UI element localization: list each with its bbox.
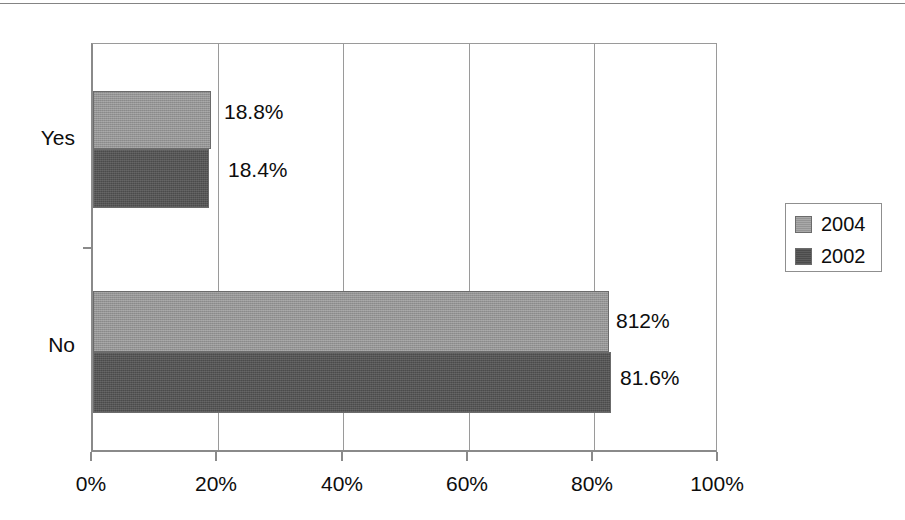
legend-entry-2004[interactable]: 2004 <box>795 214 866 234</box>
bar-no-2002[interactable] <box>93 352 611 413</box>
x-axis-label-40: 40% <box>321 473 363 494</box>
bar-no-2004[interactable] <box>93 291 609 352</box>
value-label-no-2004: 812% <box>616 310 670 331</box>
category-label-no: No <box>0 334 75 355</box>
value-label-yes-2002: 18.4% <box>228 159 288 180</box>
category-label-yes: Yes <box>0 127 75 148</box>
x-tick-40 <box>341 452 343 461</box>
scan-artifact-line <box>0 3 905 4</box>
x-axis-label-20: 20% <box>195 473 237 494</box>
legend-entry-2002[interactable]: 2002 <box>795 246 866 266</box>
x-axis-label-80: 80% <box>571 473 613 494</box>
bar-yes-2004[interactable] <box>93 91 211 149</box>
value-label-no-2002: 81.6% <box>620 367 680 388</box>
x-tick-60 <box>466 452 468 461</box>
x-tick-20 <box>215 452 217 461</box>
plot-area <box>91 43 717 452</box>
x-tick-0 <box>90 452 92 461</box>
value-label-yes-2004: 18.8% <box>224 101 284 122</box>
y-axis-category-tick <box>83 247 92 249</box>
x-tick-80 <box>591 452 593 461</box>
legend-swatch-2004-icon <box>795 216 812 233</box>
x-tick-100 <box>716 452 718 461</box>
x-axis-label-100: 100% <box>690 473 744 494</box>
legend-swatch-2002-icon <box>795 248 812 265</box>
legend: 2004 2002 <box>785 203 882 272</box>
x-axis-label-60: 60% <box>446 473 488 494</box>
legend-label-2004: 2004 <box>821 214 866 234</box>
x-axis-label-0: 0% <box>76 473 106 494</box>
legend-label-2002: 2002 <box>821 246 866 266</box>
bar-chart-figure: 18.8% 18.4% 812% 81.6% Yes No 0% 20% 40%… <box>0 0 905 520</box>
bar-yes-2002[interactable] <box>93 149 209 208</box>
